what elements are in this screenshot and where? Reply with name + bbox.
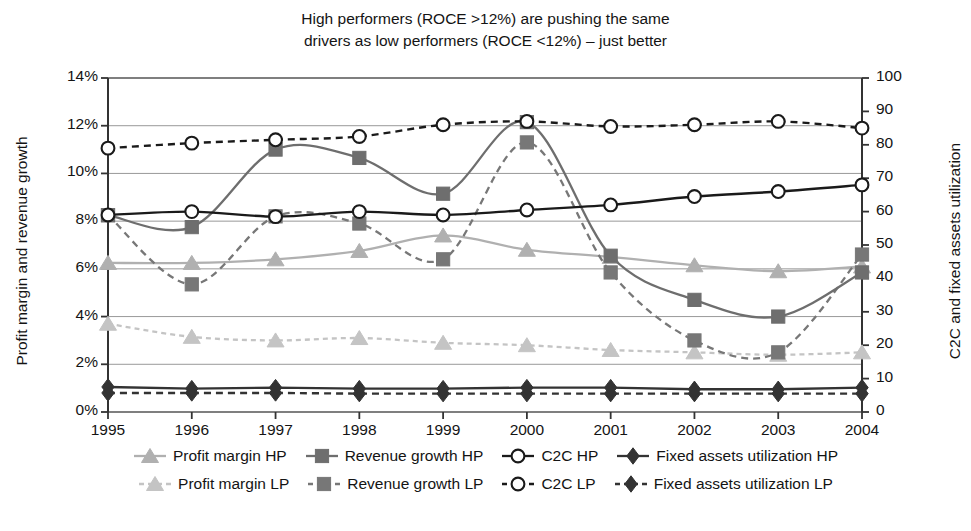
circle-open-marker-icon <box>185 205 198 218</box>
legend-item[interactable]: Revenue growth LP <box>307 475 483 493</box>
square-marker-icon <box>437 187 450 200</box>
legend-item[interactable]: Profit margin HP <box>133 447 287 465</box>
chart-container: High performers (ROCE >12%) are pushing … <box>0 0 971 531</box>
series-line <box>108 324 862 355</box>
series-profit-margin-lp <box>100 316 871 361</box>
series-profit-margin-hp <box>100 228 871 278</box>
series-revenue-growth-hp <box>101 116 868 324</box>
square-marker-icon <box>353 151 366 164</box>
series-line <box>108 185 862 217</box>
circle-open-marker-icon <box>102 209 115 222</box>
chart-legend: Profit margin HPRevenue growth HPC2C HPF… <box>0 442 971 498</box>
square-marker-icon <box>185 221 198 234</box>
square-marker-icon <box>318 477 331 490</box>
legend-swatch <box>614 475 648 493</box>
legend-item-label: Profit margin HP <box>173 447 287 465</box>
circle-open-marker-icon <box>604 199 617 212</box>
square-marker-icon <box>855 248 868 261</box>
square-marker-icon <box>604 249 617 262</box>
legend-swatch <box>138 475 172 493</box>
diamond-marker-icon <box>624 476 636 492</box>
square-marker-icon <box>772 310 785 323</box>
legend-swatch <box>501 447 535 465</box>
legend-item-label: Revenue growth LP <box>347 475 483 493</box>
legend-row-lp: Profit margin LPRevenue growth LPC2C LPF… <box>0 470 971 498</box>
triangle-marker-icon <box>100 316 117 330</box>
square-marker-icon <box>520 136 533 149</box>
series-line <box>108 393 862 394</box>
series-line <box>108 387 862 389</box>
square-marker-icon <box>185 278 198 291</box>
legend-item-label: C2C LP <box>541 475 595 493</box>
circle-open-marker-icon <box>520 204 533 217</box>
circle-open-marker-icon <box>604 120 617 133</box>
circle-open-marker-icon <box>353 205 366 218</box>
circle-open-marker-icon <box>688 118 701 131</box>
circle-open-marker-icon <box>512 450 525 463</box>
legend-item[interactable]: C2C HP <box>501 447 598 465</box>
legend-item-label: Profit margin LP <box>178 475 289 493</box>
legend-swatch <box>307 475 341 493</box>
legend-item-label: Revenue growth HP <box>345 447 484 465</box>
square-marker-icon <box>772 346 785 359</box>
square-marker-icon <box>604 266 617 279</box>
circle-open-marker-icon <box>688 190 701 203</box>
circle-open-marker-icon <box>772 115 785 128</box>
square-marker-icon <box>855 266 868 279</box>
circle-open-marker-icon <box>856 122 869 135</box>
legend-item-label: Fixed assets utilization LP <box>654 475 833 493</box>
series-line <box>108 121 862 317</box>
series-c2c-hp <box>102 178 869 223</box>
legend-item[interactable]: Revenue growth HP <box>305 447 484 465</box>
circle-open-marker-icon <box>437 118 450 131</box>
square-marker-icon <box>315 449 328 462</box>
circle-open-marker-icon <box>353 130 366 143</box>
circle-open-marker-icon <box>269 133 282 146</box>
legend-swatch <box>616 447 650 465</box>
legend-row-hp: Profit margin HPRevenue growth HPC2C HPF… <box>0 442 971 470</box>
legend-item[interactable]: Fixed assets utilization HP <box>616 447 838 465</box>
legend-item[interactable]: Fixed assets utilization LP <box>614 475 833 493</box>
circle-open-marker-icon <box>512 478 525 491</box>
circle-open-marker-icon <box>437 209 450 222</box>
square-marker-icon <box>688 293 701 306</box>
series-line <box>108 235 862 271</box>
series-line <box>108 142 862 358</box>
circle-open-marker-icon <box>772 185 785 198</box>
legend-item[interactable]: C2C LP <box>501 475 595 493</box>
diamond-marker-icon <box>627 448 639 464</box>
circle-open-marker-icon <box>102 142 115 155</box>
square-marker-icon <box>437 253 450 266</box>
legend-item-label: Fixed assets utilization HP <box>656 447 838 465</box>
square-marker-icon <box>688 334 701 347</box>
legend-swatch <box>305 447 339 465</box>
series-c2c-lp <box>102 115 869 155</box>
legend-swatch <box>133 447 167 465</box>
series-revenue-growth-lp <box>101 136 868 359</box>
circle-open-marker-icon <box>269 210 282 223</box>
circle-open-marker-icon <box>856 178 869 191</box>
circle-open-marker-icon <box>520 115 533 128</box>
legend-swatch <box>501 475 535 493</box>
circle-open-marker-icon <box>185 137 198 150</box>
legend-item-label: C2C HP <box>541 447 598 465</box>
legend-item[interactable]: Profit margin LP <box>138 475 289 493</box>
